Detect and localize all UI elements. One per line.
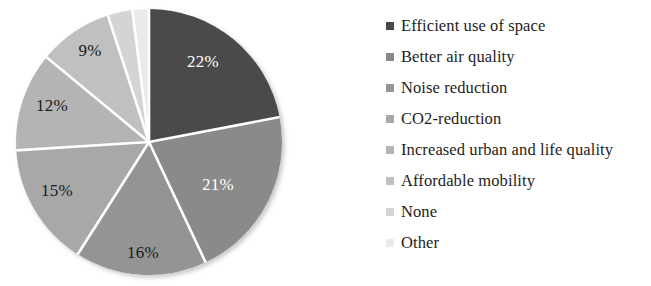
legend-swatch-icon [386,22,394,30]
pie-slice-value-label: 15% [41,181,73,200]
legend-item-label: Increased urban and life quality [401,134,613,165]
legend-item[interactable]: CO2-reduction [386,103,648,134]
legend-item-label: Better air quality [401,41,515,72]
legend-item-label: CO2-reduction [401,103,501,134]
legend-item-label: None [401,196,437,227]
legend-swatch-icon [386,53,394,61]
legend-item-label: Other [401,227,439,258]
legend-item[interactable]: Affordable mobility [386,165,648,196]
legend-item[interactable]: None [386,196,648,227]
pie-svg: 22%21%16%15%12%9% [0,0,360,286]
legend-item[interactable]: Better air quality [386,41,648,72]
chart-legend: Efficient use of spaceBetter air quality… [386,10,648,276]
legend-item-label: Noise reduction [401,72,507,103]
legend-swatch-icon [386,146,394,154]
pie-slice-value-label: 16% [127,243,159,262]
legend-swatch-icon [386,177,394,185]
legend-swatch-icon [386,208,394,216]
pie-plot-area: 22%21%16%15%12%9% [0,0,360,286]
legend-item[interactable]: Noise reduction [386,72,648,103]
pie-slice-value-label: 9% [78,41,101,60]
legend-swatch-icon [386,239,394,247]
pie-slice-value-label: 21% [202,175,234,194]
legend-swatch-icon [386,84,394,92]
legend-item-label: Efficient use of space [401,10,545,41]
legend-item[interactable]: Increased urban and life quality [386,134,648,165]
legend-item-label: Affordable mobility [401,165,535,196]
pie-slice-value-label: 22% [187,52,219,71]
legend-swatch-icon [386,115,394,123]
legend-item[interactable]: Other [386,227,648,258]
legend-item[interactable]: Efficient use of space [386,10,648,41]
pie-slice-value-label: 12% [36,96,68,115]
pie-chart-figure: 22%21%16%15%12%9% Efficient use of space… [0,0,651,286]
